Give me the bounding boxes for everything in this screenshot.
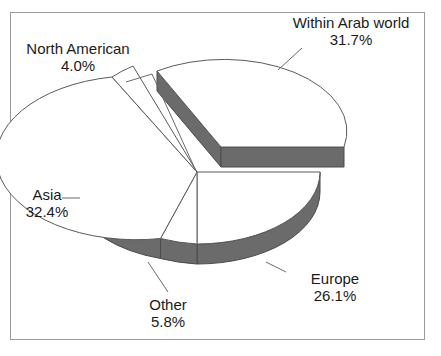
pie-label-name: Europe	[286, 270, 384, 287]
pie-label-name: Within Arab world	[271, 14, 431, 31]
exploded-slice-side-bottom	[221, 147, 344, 167]
pie-label-value: 32.4%	[8, 203, 86, 220]
pie-label-name: Asia	[8, 186, 86, 203]
leader-line-within-arab-world	[278, 48, 302, 70]
pie-label-value: 31.7%	[271, 31, 431, 48]
slice-top-europe	[197, 172, 320, 244]
exploded-slice-top-within-arab-world	[157, 59, 347, 147]
pie-label-asia: Asia 32.4%	[8, 186, 86, 220]
pie-label-within-arab-world: Within Arab world 31.7%	[271, 14, 431, 48]
leader-line-europe	[266, 262, 286, 272]
pie-label-value: 26.1%	[286, 287, 384, 304]
pie-label-name: Other	[126, 296, 210, 313]
pie-label-value: 4.0%	[8, 57, 148, 74]
pie-label-north-american: North American 4.0%	[8, 40, 148, 74]
pie-label-other: Other 5.8%	[126, 296, 210, 330]
pie-chart-page: Within Arab world 31.7% North American 4…	[0, 0, 441, 356]
pie-label-value: 5.8%	[126, 313, 210, 330]
pie-label-europe: Europe 26.1%	[286, 270, 384, 304]
leader-line-other	[148, 262, 168, 292]
pie-label-name: North American	[8, 40, 148, 57]
